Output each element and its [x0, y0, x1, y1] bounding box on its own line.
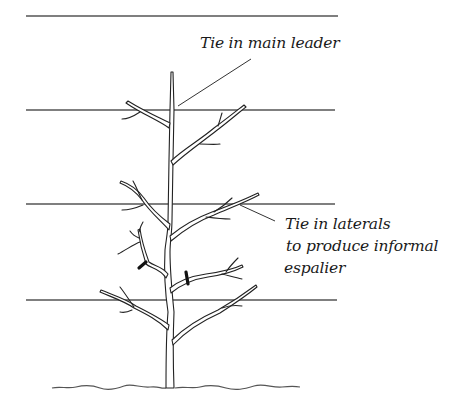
twig: [118, 242, 140, 254]
branch-bottom-right: [172, 285, 257, 345]
label-tie-laterals-3: espalier: [284, 258, 345, 278]
tree-training-diagram: [0, 0, 464, 418]
label-tie-laterals-2: to produce informal: [286, 236, 438, 256]
branch-lower-right-tied: [170, 265, 243, 293]
branch-upper-left: [126, 101, 170, 128]
twig: [222, 274, 242, 279]
twig: [120, 310, 132, 312]
label-tie-laterals-1: Tie in laterals: [285, 214, 390, 234]
pointer-laterals: [240, 205, 275, 221]
twig: [122, 205, 143, 210]
ground-line: [52, 385, 300, 389]
label-tie-main-leader: Tie in main leader: [200, 33, 339, 53]
twig: [122, 112, 140, 119]
branch-middle-left: [120, 181, 170, 230]
branch-middle-right: [170, 193, 259, 241]
twig: [130, 231, 139, 238]
branch-bottom-left: [100, 290, 169, 330]
twig: [139, 222, 143, 232]
tie-left: [139, 262, 146, 268]
twig: [206, 217, 230, 219]
tie-right: [186, 272, 188, 284]
branch-lower-left-tied: [138, 229, 168, 278]
branch-upper-right: [171, 105, 246, 165]
pointer-leader: [178, 59, 251, 106]
tree: [100, 72, 259, 388]
